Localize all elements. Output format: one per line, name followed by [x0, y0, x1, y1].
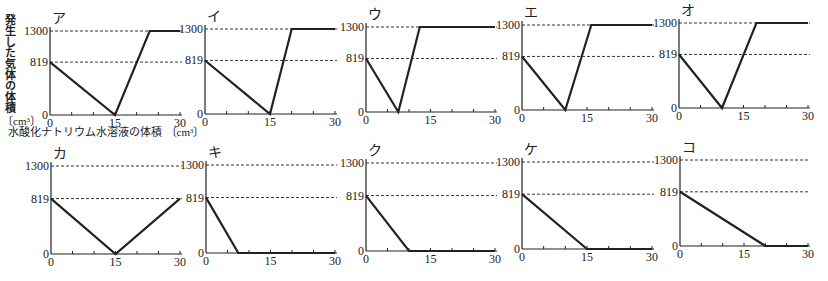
chart-title: ウ: [368, 6, 382, 22]
y-tick-label: 1300: [654, 153, 678, 167]
chart-title: カ: [53, 145, 67, 161]
x-tick-label: 30: [489, 252, 501, 266]
y-tick-label: 0: [671, 101, 677, 115]
chart-title: オ: [681, 2, 695, 18]
x-tick-label: 30: [802, 247, 814, 261]
chart-7: 0153008191300キ: [180, 144, 341, 268]
x-tick-label: 30: [646, 250, 658, 264]
y-tick-label: 1300: [340, 156, 364, 170]
y-tick-label: 0: [358, 105, 364, 119]
y-tick-label: 0: [42, 108, 48, 122]
data-line: [50, 31, 180, 115]
x-tick-label: 15: [265, 254, 277, 268]
y-tick-label: 1300: [180, 158, 204, 172]
chart-1: 0153008191300ア: [24, 10, 186, 130]
y-tick-label: 0: [514, 242, 520, 256]
y-tick-label: 1300: [496, 18, 520, 32]
x-tick-label: 15: [425, 252, 437, 266]
chart-title: エ: [524, 4, 538, 20]
x-tick-label: 15: [738, 109, 750, 123]
data-line: [366, 27, 495, 112]
x-tick-label: 30: [329, 115, 341, 129]
x-tick-label: 15: [264, 115, 276, 129]
x-tick-label: 30: [174, 255, 186, 269]
x-tick-label: 15: [110, 255, 122, 269]
y-tick-label: 819: [185, 53, 203, 67]
y-tick-label: 819: [186, 191, 204, 205]
y-tick-label: 1300: [179, 22, 203, 36]
x-tick-label: 15: [581, 111, 593, 125]
y-tick-label: 1300: [653, 16, 677, 30]
chart-8: 0153008191300ク: [340, 142, 501, 266]
data-line: [206, 198, 335, 253]
chart-9: 0153008191300ケ: [496, 141, 658, 264]
x-tick-label: 15: [425, 113, 437, 127]
y-tick-label: 0: [358, 244, 364, 258]
y-tick-label: 0: [514, 103, 520, 117]
chart-title: ア: [52, 10, 66, 26]
x-tick-label: 30: [174, 116, 186, 130]
chart-10: 0153008191300コ: [654, 139, 814, 261]
y-tick-label: 0: [672, 239, 678, 253]
chart-6: 0153008191300カ: [25, 145, 186, 269]
data-line: [205, 29, 335, 114]
chart-title: ク: [368, 142, 382, 158]
y-tick-label: 819: [502, 49, 520, 63]
y-tick-label: 1300: [340, 20, 364, 34]
chart-title: ケ: [524, 141, 538, 157]
y-tick-label: 819: [346, 189, 364, 203]
y-tick-label: 819: [30, 55, 48, 69]
data-line: [522, 194, 652, 249]
y-tick-label: 0: [197, 107, 203, 121]
y-tick-label: 1300: [496, 155, 520, 169]
x-tick-label: 30: [646, 111, 658, 125]
y-tick-label: 1300: [25, 159, 49, 173]
data-line: [679, 23, 808, 108]
x-tick-label: 30: [329, 254, 341, 268]
y-tick-label: 0: [43, 247, 49, 261]
y-tick-label: 819: [31, 192, 49, 206]
x-tick-label: 15: [109, 116, 121, 130]
y-tick-label: 819: [660, 185, 678, 199]
chart-grid: 0153008191300ア0153008191300イ015300819130…: [0, 0, 828, 281]
x-tick-label: 30: [489, 113, 501, 127]
y-tick-label: 819: [659, 47, 677, 61]
chart-title: キ: [208, 144, 222, 160]
chart-3: 0153008191300ウ: [340, 6, 501, 127]
chart-5: 0153008191300オ: [653, 2, 814, 123]
data-line: [51, 199, 180, 254]
x-tick-label: 15: [738, 247, 750, 261]
data-line: [366, 196, 495, 251]
y-tick-label: 819: [502, 187, 520, 201]
y-tick-label: 819: [346, 51, 364, 65]
data-line: [522, 25, 652, 110]
y-tick-label: 0: [198, 246, 204, 260]
y-tick-label: 1300: [24, 24, 48, 38]
chart-title: コ: [682, 139, 696, 155]
chart-2: 0153008191300イ: [179, 8, 341, 129]
chart-title: イ: [207, 8, 221, 24]
data-line: [680, 192, 808, 246]
x-tick-label: 30: [802, 109, 814, 123]
x-tick-label: 15: [581, 250, 593, 264]
chart-4: 0153008191300エ: [496, 4, 658, 125]
